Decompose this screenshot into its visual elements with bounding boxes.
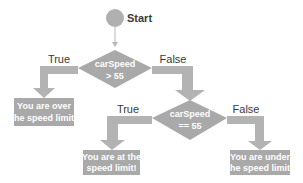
- decision-2-line-2: == 55: [178, 121, 201, 131]
- decision-diamond-1: [78, 50, 152, 88]
- outcome-under-line-2: the speed limit!: [227, 163, 293, 173]
- outcome-at-line-1: You are at the: [82, 152, 141, 162]
- decision-2-true-label: True: [117, 103, 139, 115]
- decision-2-false-label: False: [233, 103, 260, 115]
- decision-1-false-label: False: [160, 53, 187, 65]
- decision-2-line-1: carSpeed: [170, 109, 211, 119]
- arrowhead-icon: [112, 42, 118, 47]
- false-branch-arrow-2-fill: [227, 116, 272, 150]
- outcome-under-line-1: You are under: [230, 152, 290, 162]
- true-branch-arrow-2: [100, 116, 152, 150]
- outcome-at-line-2: speed limit!: [86, 163, 136, 173]
- decision-1-line-2: > 55: [106, 71, 124, 81]
- outcome-over-line-2: the speed limit!: [11, 113, 77, 123]
- decision-1-true-label: True: [48, 53, 70, 65]
- false-branch-arrow-1: [152, 66, 205, 101]
- outcome-over-line-1: You are over: [17, 101, 71, 111]
- start-label: Start: [127, 12, 152, 24]
- decision-1-line-1: carSpeed: [95, 59, 136, 69]
- flowchart: Start carSpeed > 55 True False You are o…: [0, 0, 303, 183]
- decision-diamond-2: [152, 100, 227, 140]
- true-branch-arrow-1: [33, 66, 78, 98]
- start-node: [106, 9, 124, 27]
